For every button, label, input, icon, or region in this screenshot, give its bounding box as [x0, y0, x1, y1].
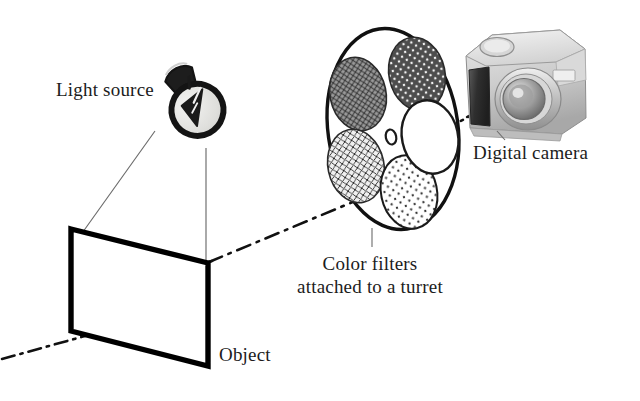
- label-digital-camera: Digital camera: [473, 141, 588, 164]
- diagram-canvas: Light source Digital camera Object Color…: [0, 0, 640, 401]
- object-plane: [71, 229, 208, 366]
- label-color-filters-line1: Color filters: [255, 252, 485, 275]
- camera-grip: [469, 67, 490, 126]
- label-color-filters-line2: attached to a turret: [255, 275, 485, 298]
- illumination-ray-left: [80, 131, 155, 236]
- camera-badge: [553, 70, 575, 81]
- diagram-graphics: [0, 0, 640, 401]
- filter-turret: [315, 20, 472, 238]
- light-bulb[interactable]: [151, 54, 232, 145]
- label-light-source: Light source: [56, 78, 154, 101]
- label-color-filters: Color filters attached to a turret: [255, 252, 485, 298]
- label-object: Object: [219, 343, 271, 366]
- digital-camera[interactable]: [466, 30, 586, 141]
